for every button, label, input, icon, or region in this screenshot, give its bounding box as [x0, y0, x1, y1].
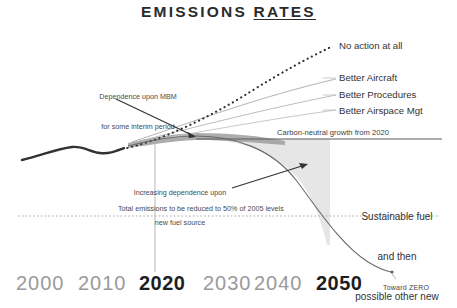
scenario-label-better-aircraft: Better Aircraft	[339, 72, 397, 84]
axis-year-2000: 2000	[16, 272, 65, 295]
callout-mbm-line2: for some interim period	[76, 122, 200, 132]
axis-year-2030: 2030	[203, 272, 252, 295]
carbon-neutral-label: Carbon-neutral growth from 2020	[277, 128, 389, 137]
axis-year-2010: 2010	[78, 272, 127, 295]
sustainable-fuel-line1: Sustainable fuel	[336, 210, 457, 223]
callout-new-fuel-line2: new fuel source	[116, 218, 244, 228]
scenario-label-better-airspace: Better Airspace Mgt	[339, 105, 423, 117]
callout-mbm-line1: Dependence upon MBM	[76, 92, 200, 102]
axis-year-2050: 2050	[316, 272, 363, 295]
scenario-label-better-procedures: Better Procedures	[339, 89, 416, 101]
axis-year-2040: 2040	[254, 272, 303, 295]
sustainable-fuel-line2: and then	[336, 250, 457, 263]
axis-year-2020: 2020	[139, 272, 186, 295]
x-axis-year-labels: 2000 2010 2020 2030 2040 2050	[0, 272, 457, 302]
reduction-target-label: Total emissions to be reduced to 50% of …	[118, 205, 284, 214]
callout-mbm: Dependence upon MBM for some interim per…	[76, 73, 200, 151]
scenario-label-no-action: No action at all	[339, 40, 402, 52]
emissions-rates-chart: EMISSIONS RATES	[0, 0, 457, 308]
callout-new-fuel-line1: Increasing dependence upon	[116, 188, 244, 198]
